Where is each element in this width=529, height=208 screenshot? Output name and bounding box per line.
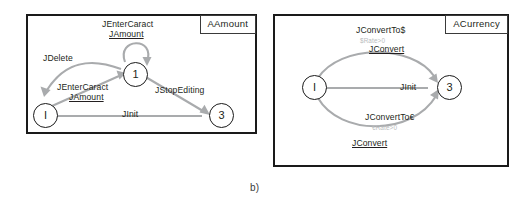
state-node-1-left[interactable]: 1 xyxy=(123,62,148,87)
state-node-3-right-label: 3 xyxy=(446,82,452,93)
state-node-I-left[interactable]: I xyxy=(33,103,58,128)
edge-label-convert-euro-guard: JConvert xyxy=(352,139,387,148)
edge-stateI-to-state3-convert-dollar xyxy=(318,52,434,78)
edge-label-jinit-left: JInit xyxy=(122,110,138,119)
state-node-3-left[interactable]: 3 xyxy=(209,103,234,128)
edge-label-jdelete: JDelete xyxy=(43,54,73,63)
right-panel-edges xyxy=(0,0,529,208)
state-node-I-right-label: I xyxy=(313,82,316,93)
edge-label-jentercaract-guard: JAmount xyxy=(69,93,104,102)
state-node-3-right[interactable]: 3 xyxy=(437,75,462,100)
edge-label-self-loop-event: JEnterCaract xyxy=(102,20,153,29)
edge-label-jinit-right: JInit xyxy=(400,83,416,92)
edge-label-convert-euro-condition: €Rate>0 xyxy=(372,125,397,132)
edge-label-convert-dollar-guard: JConvert xyxy=(369,45,404,54)
state-node-I-right[interactable]: I xyxy=(302,75,327,100)
state-node-3-left-label: 3 xyxy=(218,110,224,121)
edge-label-jentercaract-event: JEnterCaract xyxy=(57,83,108,92)
state-node-1-left-label: 1 xyxy=(132,69,138,80)
figure-caption: b) xyxy=(250,182,260,193)
edge-label-convert-dollar-event: JConvertTo$ xyxy=(356,26,405,35)
state-node-I-left-label: I xyxy=(44,110,47,121)
edge-label-convert-euro-event: JConvertTo€ xyxy=(365,113,414,122)
edge-label-self-loop-guard: JAmount xyxy=(109,30,144,39)
figure-canvas: AAmount I 1 3 JEnterCaract JAmount JDele… xyxy=(0,0,529,208)
edge-label-jstopediting: JStopEditing xyxy=(155,86,204,95)
